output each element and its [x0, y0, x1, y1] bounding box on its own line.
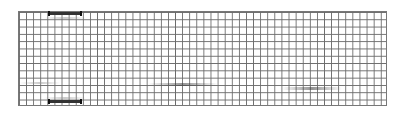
bottom-marker-right-cap: [80, 99, 82, 104]
bottom-marker-shadow: [44, 97, 86, 99]
top-marker-shadow: [44, 17, 86, 19]
top-marker-bar: [48, 12, 82, 15]
bottom-marker-left-cap: [48, 99, 50, 104]
bottom-marker-bar: [48, 100, 82, 103]
top-marker-left-cap: [48, 11, 50, 16]
top-marker-right-cap: [80, 11, 82, 16]
streak-middle: [148, 83, 218, 86]
streak-right: [282, 87, 342, 90]
grid-canvas: [18, 11, 387, 106]
left-faint-streak: [20, 82, 60, 84]
